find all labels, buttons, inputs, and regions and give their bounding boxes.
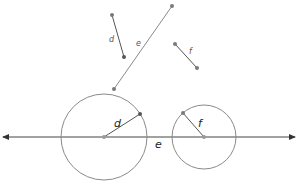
segment-e-label: e <box>136 39 141 48</box>
construction-diagram: d e f e d f <box>0 0 297 183</box>
point-icon <box>173 42 177 46</box>
point-icon <box>112 87 116 91</box>
point-icon <box>138 112 142 116</box>
point-icon <box>170 4 174 8</box>
center-point-icon <box>202 135 206 139</box>
point-icon <box>122 55 126 59</box>
number-line: e <box>3 137 295 151</box>
segment-f-label: f <box>189 47 193 56</box>
radius-d-label: d <box>114 117 122 130</box>
segment-f: f <box>173 42 199 70</box>
point-icon <box>181 111 185 115</box>
segment-d-label: d <box>109 35 115 44</box>
center-point-icon <box>102 135 106 139</box>
number-line-label: e <box>155 138 162 151</box>
radius-f-label: f <box>198 117 204 130</box>
point-icon <box>110 13 114 17</box>
point-icon <box>195 66 199 70</box>
segment-d: d <box>109 13 126 59</box>
